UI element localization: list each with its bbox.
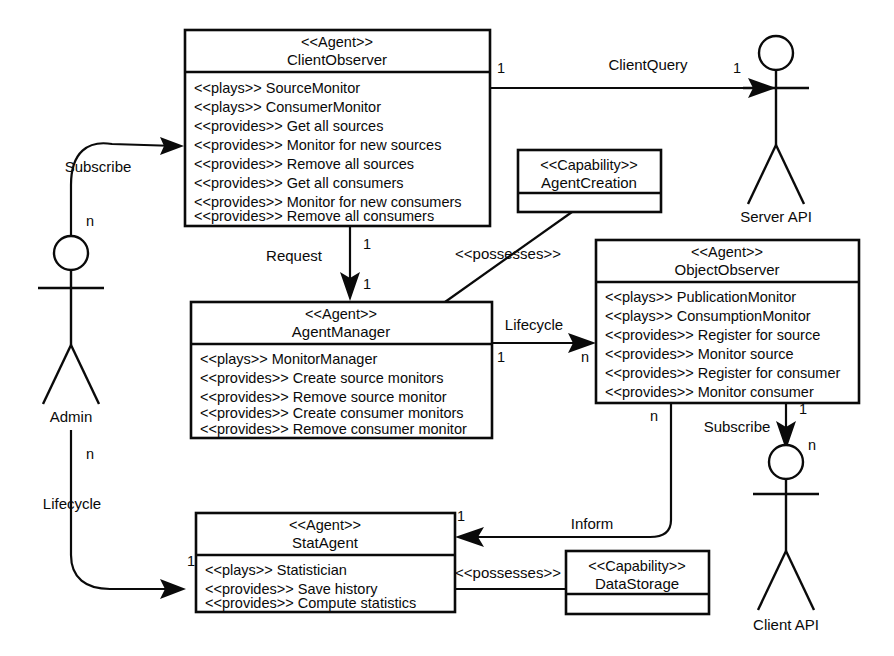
class-name: ObjectObserver <box>674 261 779 278</box>
edge-label-request: Request <box>266 247 323 264</box>
class-feature: <<provides>> Get all sources <box>194 118 383 134</box>
edge-label-inform: Inform <box>571 515 614 532</box>
class-feature: <<provides>> Remove consumer monitor <box>200 421 467 437</box>
class-feature: <<provides>> Register for consumer <box>605 365 841 381</box>
edge-objectobserver-subscribe-clientapi[interactable]: Subscribe 1 n <box>704 401 816 453</box>
actor-label-server-api: Server API <box>740 208 812 225</box>
edge-statagent-possesses-datastorage[interactable]: <<possesses>> <box>447 564 566 589</box>
class-feature: <<provides>> Register for source <box>605 327 820 343</box>
edge-mult-clientquery-source: 1 <box>497 60 505 76</box>
edge-label-subscribe-clientapi: Subscribe <box>704 418 771 435</box>
class-feature: <<provides>> Monitor consumer <box>605 384 814 400</box>
edge-mult-inform-target: 1 <box>457 508 465 524</box>
class-name: AgentManager <box>292 323 390 340</box>
edge-mult-lifecycle-admin-source: n <box>86 446 94 462</box>
uml-agent-diagram: Subscribe n ClientQuery 1 1 Request 1 1 … <box>0 0 894 656</box>
edge-mult-admin-subscribe-source: n <box>86 213 94 229</box>
class-feature: <<provides>> Compute statistics <box>205 595 416 611</box>
class-feature: <<plays>> Statistician <box>205 562 347 578</box>
class-box-object-observer[interactable]: <<Agent>> ObjectObserver <<plays>> Publi… <box>596 240 859 403</box>
edge-clientobserver-request-agentmanager[interactable]: Request 1 1 <box>266 226 371 301</box>
capability-box-agent-creation[interactable]: <<Capability>> AgentCreation <box>518 150 661 212</box>
edge-mult-request-source: 1 <box>363 236 371 252</box>
edge-mult-subscribe-clientapi-target: n <box>808 437 816 453</box>
diagram-canvas: Subscribe n ClientQuery 1 1 Request 1 1 … <box>0 0 894 656</box>
edge-label-lifecycle-admin: Lifecycle <box>43 495 101 512</box>
capability-stereotype: <<Capability>> <box>540 157 638 173</box>
actor-client-api[interactable]: Client API <box>753 445 819 633</box>
class-feature: <<provides>> Get all consumers <box>194 175 404 191</box>
class-box-agent-manager[interactable]: <<Agent>> AgentManager <<plays>> Monitor… <box>191 302 492 438</box>
edge-label-possesses-datastorage: <<possesses>> <box>455 564 561 581</box>
actor-label-admin: Admin <box>50 408 93 425</box>
edge-mult-request-target: 1 <box>363 276 371 292</box>
class-feature: <<plays>> MonitorManager <box>200 351 377 367</box>
capability-name: DataStorage <box>595 575 679 592</box>
edge-admin-subscribe-clientobserver[interactable]: Subscribe n <box>65 137 184 240</box>
edge-label-possesses-agentcreation: <<possesses>> <box>455 245 561 262</box>
edge-mult-lifecycle-target: n <box>581 349 589 365</box>
class-feature: <<provides>> Remove all consumers <box>194 208 434 224</box>
actor-admin[interactable]: Admin <box>38 236 104 425</box>
class-stereotype: <<Agent>> <box>289 517 361 533</box>
capability-stereotype: <<Capability>> <box>588 558 686 574</box>
class-stereotype: <<Agent>> <box>301 34 373 50</box>
class-feature: <<provides>> Remove source monitor <box>200 389 447 405</box>
edge-mult-clientquery-target: 1 <box>733 60 741 76</box>
actor-label-client-api: Client API <box>753 616 819 633</box>
class-name: StatAgent <box>292 534 359 551</box>
class-feature: <<provides>> Create source monitors <box>200 370 443 386</box>
edge-label-clientquery: ClientQuery <box>608 56 688 73</box>
class-box-stat-agent[interactable]: <<Agent>> StatAgent <<plays>> Statistici… <box>196 513 455 612</box>
capability-box-data-storage[interactable]: <<Capability>> DataStorage <box>566 551 709 614</box>
class-feature: <<provides>> Create consumer monitors <box>200 405 464 421</box>
edge-agentmanager-lifecycle-objectobserver[interactable]: Lifecycle 1 n <box>492 316 596 365</box>
class-feature: <<provides>> Monitor source <box>605 346 794 362</box>
capability-name: AgentCreation <box>541 174 637 191</box>
class-feature: <<plays>> PublicationMonitor <box>605 289 796 305</box>
class-feature: <<plays>> ConsumptionMonitor <box>605 308 811 324</box>
class-feature: <<provides>> Remove all sources <box>194 156 414 172</box>
class-feature: <<plays>> SourceMonitor <box>194 80 360 96</box>
actor-head-icon <box>759 36 793 70</box>
edge-mult-inform-source: n <box>650 408 658 424</box>
class-feature: <<plays>> ConsumerMonitor <box>194 99 381 115</box>
actor-head-icon <box>54 236 88 270</box>
actor-server-api[interactable]: Server API <box>740 36 812 225</box>
class-stereotype: <<Agent>> <box>305 306 377 322</box>
class-feature: <<provides>> Monitor for new sources <box>194 137 441 153</box>
actor-head-icon <box>769 445 803 479</box>
edge-label-lifecycle-objectobserver: Lifecycle <box>505 316 563 333</box>
edge-admin-lifecycle-statagent[interactable]: Lifecycle n 1 <box>43 430 195 599</box>
class-name: ClientObserver <box>287 51 387 68</box>
edge-mult-lifecycle-source: 1 <box>497 349 505 365</box>
edge-label-subscribe-admin: Subscribe <box>65 158 132 175</box>
edge-clientobserver-clientquery-serverapi[interactable]: ClientQuery 1 1 <box>490 56 776 98</box>
class-box-client-observer[interactable]: <<Agent>> ClientObserver <<plays>> Sourc… <box>185 30 490 226</box>
class-stereotype: <<Agent>> <box>691 244 763 260</box>
edge-mult-lifecycle-admin-target: 1 <box>187 553 195 569</box>
